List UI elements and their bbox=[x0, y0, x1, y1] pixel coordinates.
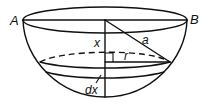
sphere-radius-line bbox=[105, 20, 170, 62]
hemisphere-diagram: A B x a r dx bbox=[0, 0, 210, 105]
right-angle-marker bbox=[105, 53, 113, 62]
label-r-radius: r bbox=[124, 49, 129, 63]
label-x-depth: x bbox=[93, 36, 101, 50]
label-dx-thickness: dx bbox=[85, 83, 99, 97]
label-b-point: B bbox=[190, 12, 199, 27]
label-a-radius: a bbox=[142, 33, 149, 47]
dx-pointer bbox=[96, 75, 101, 83]
label-a-point: A bbox=[9, 13, 19, 28]
